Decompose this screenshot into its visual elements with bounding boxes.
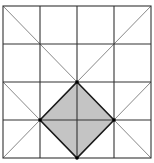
grid-diagram [0,0,154,163]
diagram-canvas [0,0,154,163]
